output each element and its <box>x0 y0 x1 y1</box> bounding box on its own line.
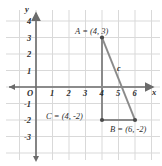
origin-label: O <box>27 89 33 98</box>
y-tick-neg2: -2 <box>24 116 31 125</box>
y-axis-label: y <box>25 5 29 14</box>
y-tick-1: 1 <box>27 67 31 76</box>
x-tick-4: 4 <box>100 89 104 98</box>
point-label-b: B = (6, -2) <box>110 125 146 134</box>
x-tick-6: 6 <box>133 89 137 98</box>
vertex-point-b <box>133 118 137 122</box>
point-label-a: A = (4, 3) <box>75 27 108 36</box>
side-label-c: c <box>117 65 121 73</box>
x-axis-left-arrow <box>9 84 15 90</box>
vertex-point-c <box>100 118 104 122</box>
y-tick-2: 2 <box>27 50 31 59</box>
x-tick-3: 3 <box>83 89 87 98</box>
x-tick-1: 1 <box>50 89 54 98</box>
graph-figure: y x O 1 2 3 4 5 6 4 3 2 1 -1 -2 -3 A = (… <box>0 0 162 166</box>
point-label-c: C = (4, -2) <box>46 112 83 121</box>
x-axis-label: x <box>152 88 156 97</box>
x-tick-2: 2 <box>67 89 71 98</box>
y-tick-3: 3 <box>27 34 31 43</box>
y-axis-bottom-arrow <box>33 156 39 162</box>
x-tick-5: 5 <box>116 89 120 98</box>
y-tick-4: 4 <box>27 17 31 26</box>
y-tick-neg3: -3 <box>24 133 31 142</box>
vertex-point-a <box>100 35 104 39</box>
y-tick-neg1: -1 <box>24 100 31 109</box>
